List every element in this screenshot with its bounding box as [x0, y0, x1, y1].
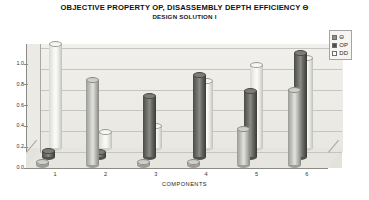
legend-label-dd: DD [339, 50, 348, 57]
legend-swatch-theta [332, 35, 337, 40]
x-axis-tick-label: 2 [96, 171, 116, 177]
bar-top-ellipse [237, 126, 250, 132]
y-axis-tick-mark [24, 147, 28, 148]
x-axis-tick-label: 1 [45, 171, 65, 177]
x-axis-tick-label: 4 [196, 171, 216, 177]
chart-title-block: OBJECTIVE PROPERTY OP, DISASSEMBLY DEPTH… [0, 3, 369, 21]
legend-swatch-dd [332, 51, 337, 56]
chart-title: OBJECTIVE PROPERTY OP, DISASSEMBLY DEPTH… [0, 3, 369, 12]
y-axis-tick-label: 0.4 [6, 123, 24, 128]
bar-cylinder [42, 148, 55, 159]
x-axis-tick-label: 3 [146, 171, 166, 177]
bar-cylinder [187, 159, 200, 168]
legend-item-op[interactable]: OP [332, 41, 348, 49]
bar-cylinder [193, 72, 206, 159]
plot-area [26, 44, 342, 168]
bar-top-ellipse [244, 88, 257, 94]
y-axis-tick-mark [24, 105, 28, 106]
y-axis-tick-label: 0.6 [6, 103, 24, 108]
bar-body [49, 44, 62, 148]
bar-cylinder [143, 93, 156, 159]
y-axis-tick-label: 1.0 [6, 61, 24, 66]
y-axis-back-line [40, 44, 41, 152]
bar-top-ellipse [86, 77, 99, 83]
y-axis-tick-mark [24, 126, 28, 127]
bar-cylinder [237, 126, 250, 168]
bar-cylinder [137, 159, 150, 168]
y-axis-tick-mark [24, 84, 28, 85]
bar-top-ellipse [250, 62, 263, 68]
bar-top-ellipse [137, 159, 150, 165]
x-axis-tick-label: 5 [247, 171, 267, 177]
legend-item-theta[interactable]: Θ [332, 33, 348, 41]
bar-body [237, 129, 250, 165]
bar-body [86, 80, 99, 165]
chart-legend: Θ OP DD [329, 30, 352, 60]
bar-top-ellipse [294, 50, 307, 56]
legend-label-theta: Θ [339, 34, 344, 41]
bar-top-ellipse [49, 41, 62, 47]
bar-body [193, 75, 206, 156]
x-axis-title: COMPONENTS [0, 181, 369, 187]
chart-subtitle: DESIGN SOLUTION I [0, 13, 369, 21]
y-axis-tick-mark [24, 168, 28, 169]
bar-cylinder [49, 41, 62, 151]
bar-cylinder [86, 77, 99, 168]
bar-top-ellipse [187, 159, 200, 165]
x-axis-tick-label: 6 [297, 171, 317, 177]
bar-cylinder [288, 87, 301, 168]
bar-top-ellipse [288, 87, 301, 93]
y-axis-tick-label: 0.0 [6, 165, 24, 170]
legend-swatch-op [332, 43, 337, 48]
chart-container: OBJECTIVE PROPERTY OP, DISASSEMBLY DEPTH… [0, 0, 369, 200]
legend-label-op: OP [339, 42, 348, 49]
bar-cylinder [99, 129, 112, 151]
bar-body [143, 96, 156, 156]
bar-cylinder [36, 159, 49, 168]
bar-body [288, 90, 301, 165]
y-axis-line [26, 44, 27, 152]
y-axis-tick-label: 0.8 [6, 82, 24, 87]
y-axis-tick-mark [24, 64, 28, 65]
y-axis-tick-label: 0.2 [6, 144, 24, 149]
x-axis-line [26, 168, 328, 169]
bar-top-ellipse [36, 159, 49, 165]
legend-item-dd[interactable]: DD [332, 49, 348, 57]
